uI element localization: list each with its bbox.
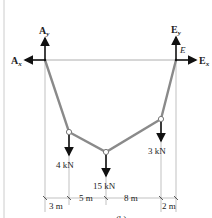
label-load-C: 15 kN	[93, 181, 116, 191]
joint-C	[103, 149, 108, 154]
joint-D	[158, 116, 163, 121]
label-load-D: 3 kN	[148, 146, 166, 156]
label-point-E: E	[179, 45, 186, 55]
dimension-label-2m: 2 m	[162, 201, 176, 211]
label-Ey: Ey	[171, 24, 182, 37]
cable	[45, 60, 176, 152]
joint-B	[66, 129, 71, 134]
label-Ax: Ax	[11, 55, 22, 68]
label-Ay: Ay	[39, 25, 50, 38]
label-load-B: 4 kN	[56, 160, 74, 170]
dimension-label-3m: 3 m	[49, 201, 63, 211]
caption: (b)	[116, 214, 127, 218]
dimension-label-8m: 8 m	[124, 193, 138, 203]
cable-diagram: Ay Ax Ey Ex E 4 kN 15 kN 3 kN 3 m 5 m 8 …	[0, 0, 212, 218]
dimension-label-5m: 5 m	[79, 193, 93, 203]
label-Ex: Ex	[199, 55, 210, 68]
